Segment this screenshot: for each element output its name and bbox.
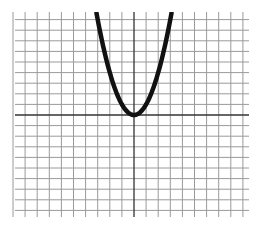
coordinate-plane-chart <box>0 0 264 236</box>
